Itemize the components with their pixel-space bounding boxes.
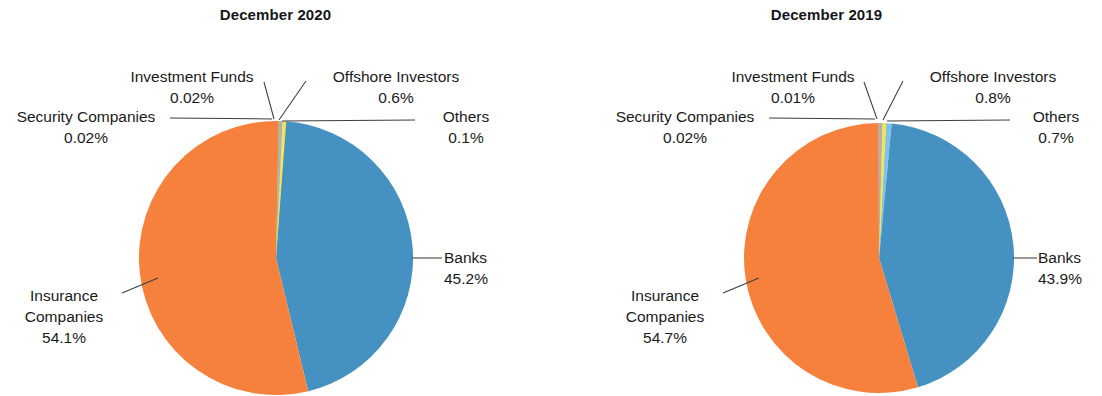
label-banks-pct-2019: 43.9% <box>1038 268 1102 289</box>
label-offshore-investors-name-2019: Offshore Investors <box>930 68 1056 85</box>
pie-slices-2019 <box>744 123 1014 393</box>
chart-panel-december-2019: December 2019 Investment Funds 0.01% Off… <box>551 0 1102 396</box>
label-investment-funds-pct-2020: 0.02% <box>118 87 266 108</box>
label-security-companies-pct-2020: 0.02% <box>2 127 170 148</box>
label-security-companies-2020: Security Companies 0.02% <box>2 106 170 148</box>
label-insurance-name-line2-2019: Companies <box>609 306 721 327</box>
leader-line-offshore-2020 <box>279 81 306 120</box>
label-security-companies-2019: Security Companies 0.02% <box>601 106 769 148</box>
label-banks-name-2019: Banks <box>1038 249 1081 266</box>
label-banks-name-2020: Banks <box>444 249 487 266</box>
label-offshore-investors-2020: Offshore Investors 0.6% <box>310 66 482 108</box>
leader-line-security-2019 <box>769 118 875 119</box>
label-insurance-pct-2020: 54.1% <box>8 327 120 348</box>
leader-line-security-2020 <box>170 118 272 119</box>
label-security-companies-name-2020: Security Companies <box>17 108 156 125</box>
label-banks-2020: Banks 45.2% <box>444 247 534 289</box>
label-insurance-pct-2019: 54.7% <box>609 327 721 348</box>
label-others-name-2019: Others <box>1033 108 1080 125</box>
label-insurance-name-line1-2020: Insurance <box>30 287 98 304</box>
label-investment-funds-name-2019: Investment Funds <box>731 68 854 85</box>
label-investment-funds-2019: Investment Funds 0.01% <box>719 66 867 108</box>
label-investment-funds-name-2020: Investment Funds <box>130 68 253 85</box>
label-offshore-investors-pct-2020: 0.6% <box>310 87 482 108</box>
label-insurance-name-line2-2020: Companies <box>8 306 120 327</box>
label-offshore-investors-pct-2019: 0.8% <box>907 87 1079 108</box>
label-insurance-companies-2020: Insurance Companies 54.1% <box>8 285 120 348</box>
leader-line-offshore-2019 <box>883 81 903 120</box>
label-investment-funds-pct-2019: 0.01% <box>719 87 867 108</box>
pie-slices-2020 <box>139 121 413 395</box>
label-others-name-2020: Others <box>443 108 490 125</box>
label-offshore-investors-2019: Offshore Investors 0.8% <box>907 66 1079 108</box>
label-others-pct-2020: 0.1% <box>416 127 516 148</box>
label-security-companies-name-2019: Security Companies <box>616 108 755 125</box>
label-investment-funds-2020: Investment Funds 0.02% <box>118 66 266 108</box>
label-others-pct-2019: 0.7% <box>1011 127 1101 148</box>
label-security-companies-pct-2019: 0.02% <box>601 127 769 148</box>
label-others-2019: Others 0.7% <box>1011 106 1101 148</box>
label-banks-pct-2020: 45.2% <box>444 268 534 289</box>
pie-chart-figure: December 2020 Investment Funds 0.02% Off… <box>0 0 1102 396</box>
label-insurance-companies-2019: Insurance Companies 54.7% <box>609 285 721 348</box>
leader-line-others-2020 <box>282 120 415 121</box>
leader-line-others-2019 <box>887 120 1010 121</box>
label-banks-2019: Banks 43.9% <box>1038 247 1102 289</box>
label-insurance-name-line1-2019: Insurance <box>631 287 699 304</box>
label-others-2020: Others 0.1% <box>416 106 516 148</box>
label-offshore-investors-name-2020: Offshore Investors <box>333 68 459 85</box>
chart-panel-december-2020: December 2020 Investment Funds 0.02% Off… <box>0 0 551 396</box>
